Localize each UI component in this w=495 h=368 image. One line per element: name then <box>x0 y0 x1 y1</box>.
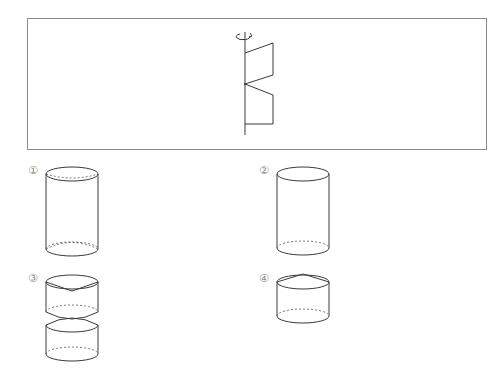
option-4-label: ④ <box>259 273 269 284</box>
option-3-figure[interactable] <box>46 275 98 361</box>
option-2-figure[interactable] <box>277 167 329 255</box>
problem-figure <box>0 0 495 368</box>
option-2-label: ② <box>259 165 269 176</box>
option-1-figure[interactable] <box>46 167 98 256</box>
option-4-figure[interactable] <box>277 274 329 323</box>
option-3-label: ③ <box>28 273 38 284</box>
plane-profile <box>244 43 273 124</box>
rotation-arrow-icon <box>236 33 252 40</box>
question-frame <box>28 19 487 150</box>
option-1-label: ① <box>28 165 38 176</box>
